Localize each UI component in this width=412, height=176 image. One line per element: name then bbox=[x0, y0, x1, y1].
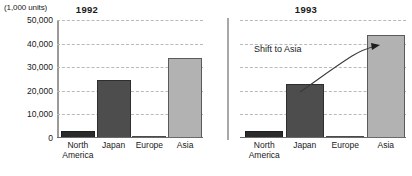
x-label-line2: America bbox=[60, 150, 96, 160]
x-label-line2: America bbox=[244, 150, 285, 160]
panel-1992-bars bbox=[57, 20, 203, 138]
x-label-japan: Japan bbox=[285, 140, 326, 150]
panel-1992-title: 1992 bbox=[12, 4, 162, 15]
x-label-line1: North bbox=[67, 140, 88, 150]
x-label-north-america: North America bbox=[244, 140, 285, 160]
x-label-asia: Asia bbox=[366, 140, 407, 150]
bar-1993-asia bbox=[367, 35, 405, 138]
panel-1992-plot-area bbox=[57, 20, 203, 138]
x-label-europe: Europe bbox=[132, 140, 168, 150]
panel-1993-title: 1993 bbox=[226, 4, 386, 15]
bar-1992-japan bbox=[97, 80, 131, 138]
bar-1993-japan bbox=[286, 84, 324, 138]
chart-figure: (1,000 units) 0 10,000 20,000 30,000 40,… bbox=[0, 0, 412, 176]
x-label-japan: Japan bbox=[96, 140, 132, 150]
x-axis-baseline bbox=[57, 137, 203, 138]
panel-1993: 1993 Shift to Asia bbox=[206, 0, 412, 176]
panel-1993-plot-area: Shift to Asia bbox=[240, 20, 406, 138]
panel-1992-x-labels: North America Japan Europe Asia bbox=[57, 140, 203, 174]
x-axis-baseline bbox=[240, 137, 406, 138]
panel-1992: 1992 North America Japan Europe A bbox=[0, 0, 206, 176]
x-label-line1: North bbox=[254, 140, 275, 150]
x-label-asia: Asia bbox=[167, 140, 203, 150]
bar-1992-asia bbox=[168, 58, 202, 138]
panel-1993-x-labels: North America Japan Europe Asia bbox=[240, 140, 406, 174]
x-label-north-america: North America bbox=[60, 140, 96, 160]
x-label-europe: Europe bbox=[325, 140, 366, 150]
shift-to-asia-annotation: Shift to Asia bbox=[254, 44, 302, 54]
panel-1993-bars bbox=[240, 20, 406, 138]
